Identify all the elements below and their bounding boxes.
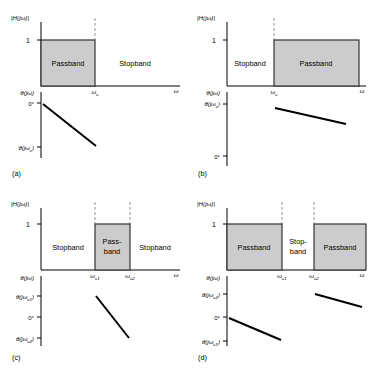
phase-line-segment-right-d xyxy=(315,294,362,307)
phase-axis-label-c: θ(jω) xyxy=(20,274,34,281)
panel-c-bandpass: |H(jω)| 1 Stopband Pass- band Stopband ω… xyxy=(0,186,185,372)
phase-zero-label-d: 0° xyxy=(214,315,220,321)
magnitude-axis-label-d: |H(jω)| xyxy=(197,200,215,207)
phase-zero-label-c: 0° xyxy=(28,315,34,321)
magnitude-one-label-a: 1 xyxy=(26,37,30,44)
phase-line-segment-a xyxy=(43,104,96,146)
panel-b-highpass: |H(jω)| 1 Stopband Passband ωc ω θ(jω) θ… xyxy=(186,0,371,186)
tick-label-omega-c2-d: ωc2 xyxy=(309,273,319,281)
magnitude-one-label-d: 1 xyxy=(212,221,216,228)
band-label-stopband-right-c: Stopband xyxy=(139,243,171,252)
axis-label-omega-c: ω xyxy=(174,272,179,278)
magnitude-one-label-b: 1 xyxy=(212,37,216,44)
band-label-stopband-left-c: Stopband xyxy=(52,243,84,252)
phase-theta-c1-label-c: θ(jωc1) xyxy=(16,294,34,302)
phase-theta-c2-label-d: θ(jωc2) xyxy=(202,292,220,300)
phase-zero-label-b: 0° xyxy=(214,154,220,160)
axis-label-omega-b: ω xyxy=(360,88,365,94)
panel-c-plot: |H(jω)| 1 Stopband Pass- band Stopband ω… xyxy=(0,186,185,372)
panel-b-plot: |H(jω)| 1 Stopband Passband ωc ω θ(jω) θ… xyxy=(186,0,371,186)
axis-label-omega-d: ω xyxy=(360,272,365,278)
band-label-stopband-b: Stopband xyxy=(234,59,266,68)
panel-caption-a: (a) xyxy=(12,169,21,178)
axis-label-omega-a: ω xyxy=(174,88,179,94)
band-label-passband-a: Passband xyxy=(52,59,85,68)
band-label-stopband-a: Stopband xyxy=(119,59,151,68)
phase-axis-label-b: θ(jω) xyxy=(206,89,220,96)
magnitude-axis-label-b: |H(jω)| xyxy=(197,14,215,21)
magnitude-axis-label-a: |H(jω)| xyxy=(11,14,29,21)
phase-axis-label-d: θ(jω) xyxy=(206,274,220,281)
band-label-passband-c-line2: band xyxy=(104,247,120,256)
phase-axis-label-a: θ(jω) xyxy=(20,89,34,96)
magnitude-one-label-c: 1 xyxy=(26,221,30,228)
phase-zero-label-a: 0° xyxy=(28,101,34,107)
panel-d-bandstop: |H(jω)| 1 Passband Stop- band Passband ω… xyxy=(186,186,371,372)
panel-caption-d: (d) xyxy=(198,353,207,362)
tick-label-omega-c2-c: ωc2 xyxy=(125,273,135,281)
tick-label-omega-c1-d: ωc1 xyxy=(277,273,287,281)
phase-line-segment-c xyxy=(96,296,129,338)
band-label-passband-b: Passband xyxy=(300,59,333,68)
band-label-stopband-d-line1: Stop- xyxy=(289,237,307,246)
phase-theta-c1-label-d: θ(jωc1) xyxy=(202,339,220,347)
panel-d-plot: |H(jω)| 1 Passband Stop- band Passband ω… xyxy=(186,186,371,372)
panel-caption-c: (c) xyxy=(12,353,20,362)
band-label-passband-left-d: Passband xyxy=(238,243,271,252)
phase-theta-c-label-a: θ(jωc) xyxy=(19,145,34,153)
panel-a-plot: |H(jω)| 1 Passband Stopband ωc ω θ(jω) 0… xyxy=(0,0,185,186)
panel-a-lowpass: |H(jω)| 1 Passband Stopband ωc ω θ(jω) 0… xyxy=(0,0,185,186)
band-label-passband-right-d: Passband xyxy=(324,243,357,252)
band-label-passband-c-line1: Pass- xyxy=(103,237,122,246)
phase-line-segment-b xyxy=(275,108,346,124)
phase-theta-c-label-b: θ(jωc) xyxy=(205,101,220,109)
panel-caption-b: (b) xyxy=(198,169,207,178)
phase-line-segment-left-d xyxy=(229,318,281,340)
tick-label-omega-c-a: ωc xyxy=(92,89,100,97)
phase-theta-c2-label-c: θ(jωc2) xyxy=(16,336,34,344)
band-label-stopband-d-line2: band xyxy=(290,247,306,256)
tick-label-omega-c1-c: ωc1 xyxy=(90,273,100,281)
magnitude-axis-label-c: |H(jω)| xyxy=(11,200,29,207)
tick-label-omega-c-b: ωc xyxy=(271,89,279,97)
filter-response-figure: |H(jω)| 1 Passband Stopband ωc ω θ(jω) 0… xyxy=(0,0,371,372)
